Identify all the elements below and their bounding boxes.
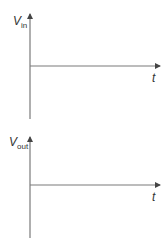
output-x-label: t — [152, 190, 156, 204]
diagram-canvas: Vin t Vout t — [0, 0, 167, 248]
input-y-label: Vin — [13, 14, 27, 30]
input-plot: Vin t — [13, 14, 160, 119]
output-y-label: Vout — [9, 135, 29, 151]
output-plot: Vout t — [9, 135, 160, 238]
input-x-label: t — [152, 71, 156, 85]
